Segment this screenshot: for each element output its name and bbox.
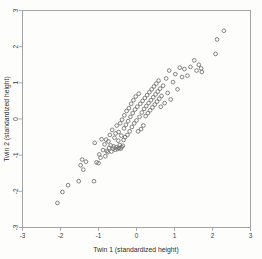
data-point xyxy=(80,158,84,162)
data-point xyxy=(131,111,135,115)
data-point xyxy=(110,128,114,132)
data-point xyxy=(103,142,107,146)
data-point xyxy=(186,74,190,78)
data-point xyxy=(195,69,199,73)
data-point xyxy=(127,106,131,110)
data-point xyxy=(214,52,218,56)
x-tick-label: 0 xyxy=(135,232,139,239)
data-point xyxy=(159,105,163,109)
data-point xyxy=(100,137,104,141)
data-point xyxy=(169,98,173,102)
data-point xyxy=(199,67,203,71)
data-point xyxy=(189,65,193,69)
data-point xyxy=(178,66,182,70)
y-tick-label: -2 xyxy=(12,188,19,194)
data-point xyxy=(141,124,145,128)
x-axis-title: Twin 1 (standardized height) xyxy=(93,246,178,254)
y-tick-label: 3 xyxy=(12,8,19,12)
data-point xyxy=(134,95,138,99)
data-point xyxy=(197,63,201,67)
x-tick-label: -2 xyxy=(58,232,64,239)
data-point xyxy=(103,154,107,158)
data-point xyxy=(108,133,112,137)
data-point xyxy=(164,77,168,81)
data-point xyxy=(92,179,96,183)
data-point xyxy=(139,127,143,131)
data-point xyxy=(166,91,170,95)
data-point xyxy=(66,183,70,187)
y-tick-label: 0 xyxy=(12,117,19,121)
data-point xyxy=(77,179,81,183)
y-tick-label: 1 xyxy=(12,81,19,85)
data-point xyxy=(120,118,124,122)
data-point xyxy=(122,127,126,131)
data-point xyxy=(222,29,226,33)
data-point xyxy=(163,101,167,105)
data-point xyxy=(101,148,105,152)
data-point xyxy=(113,136,117,140)
data-point xyxy=(126,133,130,137)
x-tick-label: 1 xyxy=(173,232,177,239)
data-point xyxy=(122,114,126,118)
data-point xyxy=(118,121,122,125)
data-point xyxy=(128,129,132,133)
data-point xyxy=(124,123,128,127)
data-point xyxy=(180,75,184,79)
data-point xyxy=(84,160,88,164)
data-point xyxy=(79,163,83,167)
y-axis-title: Twin 2 (standardized height) xyxy=(3,76,11,161)
data-point xyxy=(192,59,196,63)
data-point xyxy=(183,67,187,71)
data-point xyxy=(129,102,133,106)
data-point xyxy=(157,79,161,83)
data-point xyxy=(81,168,85,172)
data-point xyxy=(171,80,175,84)
data-point xyxy=(119,134,123,138)
data-point xyxy=(129,115,133,119)
data-point xyxy=(167,69,171,73)
data-point xyxy=(140,111,144,115)
y-tick-label: -1 xyxy=(12,152,19,158)
data-point xyxy=(130,125,134,129)
data-point xyxy=(132,98,136,102)
data-point xyxy=(56,201,60,205)
data-point xyxy=(137,92,141,96)
data-point xyxy=(161,84,165,88)
data-point xyxy=(135,119,139,123)
plot-canvas: -3-2-10123 -3-2-10123 Twin 1 (standardiz… xyxy=(0,0,262,259)
data-point xyxy=(200,70,204,74)
y-tick-label: -3 xyxy=(12,224,19,230)
x-tick-label: -3 xyxy=(20,232,26,239)
x-tick-label: 2 xyxy=(211,232,215,239)
data-point xyxy=(135,105,139,109)
data-point xyxy=(61,190,65,194)
data-point xyxy=(158,87,162,91)
data-point xyxy=(115,124,119,128)
data-point xyxy=(176,87,180,91)
data-point xyxy=(160,94,164,98)
x-axis-ticks: -3-2-10123 xyxy=(20,228,253,240)
data-point xyxy=(138,115,142,119)
data-point xyxy=(93,141,97,145)
data-point xyxy=(116,139,120,143)
data-points-layer xyxy=(56,29,226,205)
data-point xyxy=(215,38,219,42)
x-tick-label: 3 xyxy=(249,232,253,239)
data-point xyxy=(173,72,177,76)
data-point xyxy=(126,119,130,123)
x-tick-label: -1 xyxy=(96,232,102,239)
y-tick-label: 2 xyxy=(12,44,19,48)
y-axis-ticks: -3-2-10123 xyxy=(12,8,23,230)
scatter-plot-figure: -3-2-10123 -3-2-10123 Twin 1 (standardiz… xyxy=(0,0,262,259)
